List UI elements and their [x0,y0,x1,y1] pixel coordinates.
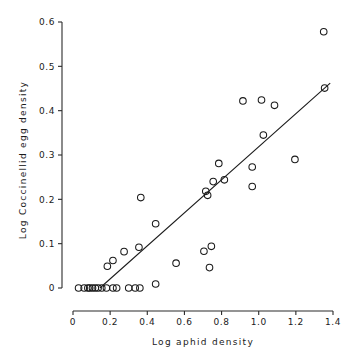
data-point-marker [206,264,213,271]
regression-line [100,83,330,288]
data-point-marker [240,98,247,105]
data-point-marker [125,285,132,292]
data-point-marker [173,260,180,267]
data-point-marker [258,97,265,104]
x-tick-label: 0.6 [176,317,192,327]
data-point-marker [201,248,208,255]
data-point-marker [152,281,159,288]
y-tick-label: 0.5 [39,62,55,72]
data-point-marker [137,194,144,201]
x-tick-label: 0 [70,317,76,327]
x-tick-label: 0.4 [139,317,155,327]
x-tick-label: 0.2 [102,317,118,327]
y-tick-label: 0.2 [39,195,55,205]
data-points [75,28,328,291]
y-tick-label: 0.6 [39,17,55,27]
data-point-marker [104,263,111,270]
x-axis: 00.20.40.60.81.01.21.4 [70,311,341,327]
x-tick-label: 0.8 [214,317,230,327]
data-point-marker [152,220,159,227]
data-point-marker [249,164,256,171]
x-tick-label: 1.2 [288,317,304,327]
x-tick-label: 1.0 [251,317,267,327]
data-point-marker [208,243,215,250]
scatter-plot-figure: 00.10.20.30.40.50.6 00.20.40.60.81.01.21… [0,0,345,358]
data-point-marker [260,132,267,139]
x-tick-label: 1.4 [325,317,341,327]
data-point-marker [271,102,278,109]
data-point-marker [137,285,144,292]
data-point-marker [110,257,117,264]
y-axis: 00.10.20.30.40.50.6 [39,17,62,293]
data-point-marker [204,192,211,199]
y-tick-label: 0.1 [39,239,55,249]
data-point-marker [136,244,143,251]
data-point-marker [215,160,222,167]
data-point-marker [320,28,327,35]
y-tick-label: 0 [49,283,55,293]
data-point-marker [249,183,256,190]
y-tick-label: 0.3 [39,150,55,160]
y-axis-title: Log Coccinellid egg density [18,81,28,239]
plot-canvas: 00.10.20.30.40.50.6 00.20.40.60.81.01.21… [0,0,345,358]
data-point-marker [103,285,110,292]
y-tick-label: 0.4 [39,106,55,116]
regression-line-segment [100,83,330,288]
x-axis-title: Log aphid density [152,337,254,347]
data-point-marker [292,156,299,163]
data-point-marker [121,248,128,255]
data-point-marker [210,178,217,185]
